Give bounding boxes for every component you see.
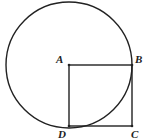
point-b bbox=[131, 64, 134, 67]
label-b: B bbox=[134, 53, 142, 65]
point-d bbox=[68, 125, 71, 128]
label-d: D bbox=[57, 128, 66, 140]
geometry-diagram: A B C D bbox=[0, 0, 146, 140]
square-abcd bbox=[69, 65, 132, 126]
point-c bbox=[131, 125, 134, 128]
label-a: A bbox=[55, 53, 63, 65]
point-a bbox=[68, 64, 71, 67]
label-c: C bbox=[131, 128, 139, 140]
